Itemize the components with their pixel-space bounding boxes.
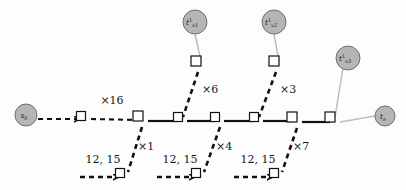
circle-node-group: s0tet1v1t1v2t1v3 (15, 10, 395, 126)
square-node-sq-bottom-3[interactable] (270, 169, 279, 178)
square-node-sq-bottom-1[interactable] (116, 169, 125, 178)
label-cost-2: 12, 15 (163, 153, 198, 166)
square-node-sq-top-2[interactable] (269, 56, 279, 66)
label-x7: ×7 (293, 140, 309, 153)
label-x1: ×1 (138, 140, 154, 153)
square-node-sq-spine-6[interactable] (325, 112, 335, 122)
circle-node-source[interactable]: s0 (15, 104, 37, 126)
label-x16: ×16 (100, 94, 123, 107)
diagram-root: s0tet1v1t1v2t1v3 ×16×6×3×1×4×712, 1512, … (0, 0, 406, 190)
edge-label-group: ×16×6×3×1×4×712, 1512, 1512, 15 (86, 83, 310, 166)
circle-node-branch-top-1[interactable]: t1v1 (183, 10, 207, 34)
square-node-sq-spine-3[interactable] (211, 113, 220, 122)
label-x6: ×6 (202, 83, 218, 96)
square-node-sq-entry[interactable] (77, 112, 86, 121)
square-node-sq-spine-2[interactable] (174, 113, 183, 122)
square-node-sq-top-1[interactable] (191, 56, 201, 66)
circle-node-branch-top-2[interactable]: t1v2 (262, 10, 286, 34)
dashed-edge-x3 (259, 72, 276, 117)
label-x4: ×4 (216, 140, 232, 153)
square-node-sq-bottom-2[interactable] (192, 169, 201, 178)
square-node-sq-spine-4[interactable] (250, 113, 259, 122)
circle-node-branch-top-3[interactable]: t1v3 (336, 46, 360, 70)
gray-connector-sink (340, 116, 375, 122)
diagram-canvas: s0tet1v1t1v2t1v3 ×16×6×3×1×4×712, 1512, … (0, 0, 406, 190)
circle-node-sink[interactable]: te (375, 106, 395, 126)
square-node-sq-spine-1[interactable] (133, 111, 143, 121)
gray-connector-top-3 (335, 68, 343, 117)
dashed-edge-x16 (91, 119, 138, 120)
dashed-edge-x6 (183, 72, 198, 117)
square-node-sq-spine-5[interactable] (287, 112, 297, 122)
label-cost-1: 12, 15 (86, 153, 121, 166)
label-cost-3: 12, 15 (241, 153, 276, 166)
label-x3: ×3 (280, 83, 296, 96)
